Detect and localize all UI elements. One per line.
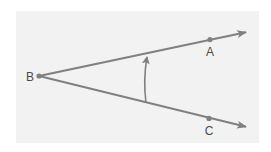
ray-ba xyxy=(39,32,246,76)
angle-diagram: B A C xyxy=(0,0,271,152)
point-b xyxy=(36,73,41,78)
ray-bc xyxy=(39,76,246,127)
label-a: A xyxy=(206,45,214,59)
angle-arc-arrow xyxy=(145,57,147,103)
point-c xyxy=(206,116,211,121)
label-c: C xyxy=(205,124,214,138)
point-a xyxy=(207,37,212,42)
label-b: B xyxy=(26,70,34,84)
